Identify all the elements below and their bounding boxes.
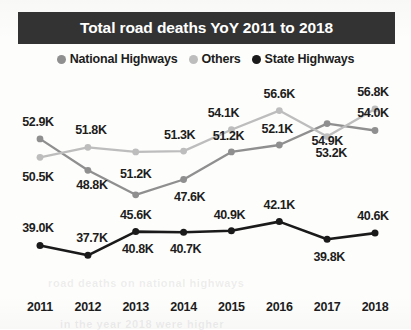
legend-item-label: State Highways	[265, 52, 355, 66]
data-point[interactable]	[37, 154, 44, 161]
x-axis-label-2012: 2012	[75, 300, 102, 314]
x-axis-label-2015: 2015	[218, 300, 245, 314]
data-point[interactable]	[180, 229, 187, 236]
legend-item-others[interactable]: Others	[189, 52, 241, 66]
data-point[interactable]	[324, 133, 331, 140]
x-axis-label-2013: 2013	[122, 300, 149, 314]
data-point[interactable]	[228, 126, 235, 133]
data-point[interactable]	[372, 106, 379, 113]
data-point[interactable]	[37, 242, 44, 249]
page-title: Total road deaths YoY 2011 to 2018	[80, 19, 333, 37]
data-point[interactable]	[228, 227, 235, 234]
x-axis-label-2017: 2017	[314, 300, 341, 314]
x-axis-label-2016: 2016	[266, 300, 293, 314]
data-point[interactable]	[85, 144, 92, 151]
data-point[interactable]	[84, 252, 91, 259]
x-axis-tick-labels: 20112012201320142015201620172018	[0, 300, 411, 322]
data-point[interactable]	[180, 176, 187, 183]
data-point[interactable]	[276, 218, 283, 225]
chart-legend: National HighwaysOthersState Highways	[0, 49, 411, 69]
data-point[interactable]	[276, 142, 283, 149]
legend-marker-icon	[189, 55, 198, 64]
data-point[interactable]	[228, 149, 235, 156]
data-point[interactable]	[132, 149, 139, 156]
data-point[interactable]	[180, 148, 187, 155]
plot-area: 52.9K48.8K45.6K47.6K51.2K52.1K54.9K54.0K…	[0, 70, 411, 298]
legend-item-state-highways[interactable]: State Highways	[252, 52, 355, 66]
legend-item-label: National Highways	[70, 52, 178, 66]
data-point[interactable]	[132, 228, 139, 235]
data-point[interactable]	[132, 191, 139, 198]
line-chart-svg	[0, 70, 411, 298]
data-point[interactable]	[85, 167, 92, 174]
legend-marker-icon	[57, 55, 66, 64]
x-axis-label-2018: 2018	[362, 300, 389, 314]
data-point[interactable]	[324, 236, 331, 243]
x-axis-label-2011: 2011	[27, 300, 53, 314]
legend-item-label: Others	[202, 52, 241, 66]
data-point[interactable]	[37, 136, 44, 143]
data-point[interactable]	[276, 107, 283, 114]
series-line-others	[40, 109, 375, 157]
chart-title-bar: Total road deaths YoY 2011 to 2018	[18, 12, 395, 44]
legend-marker-icon	[252, 55, 261, 64]
data-point[interactable]	[372, 127, 379, 134]
data-point[interactable]	[324, 120, 331, 127]
x-axis-label-2014: 2014	[170, 300, 197, 314]
legend-item-national-highways[interactable]: National Highways	[57, 52, 178, 66]
data-point[interactable]	[372, 230, 379, 237]
